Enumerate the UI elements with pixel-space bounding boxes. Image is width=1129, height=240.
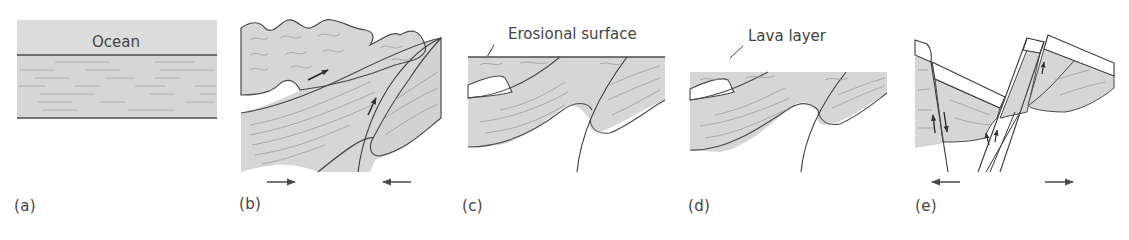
panel-label-b: (b) bbox=[239, 195, 261, 213]
panel-label-a: (a) bbox=[14, 197, 36, 215]
panel-c bbox=[468, 45, 665, 172]
lava-layer-label: Lava layer bbox=[748, 27, 826, 45]
slip-arrow-icon bbox=[995, 130, 997, 142]
sediment-layer bbox=[17, 55, 217, 118]
annotation-leader bbox=[730, 46, 743, 58]
slip-arrow-icon bbox=[986, 133, 989, 145]
erosional-surface-label: Erosional surface bbox=[508, 25, 637, 43]
panel-d bbox=[690, 46, 887, 172]
panel-b bbox=[241, 20, 441, 182]
annotation-leader bbox=[487, 45, 495, 56]
panel-e bbox=[915, 35, 1114, 182]
panel-label-d: (d) bbox=[688, 197, 710, 215]
ocean-label: Ocean bbox=[92, 33, 140, 51]
eroded-layers bbox=[468, 57, 665, 147]
panel-label-e: (e) bbox=[915, 197, 937, 215]
panel-label-c: (c) bbox=[462, 197, 483, 215]
